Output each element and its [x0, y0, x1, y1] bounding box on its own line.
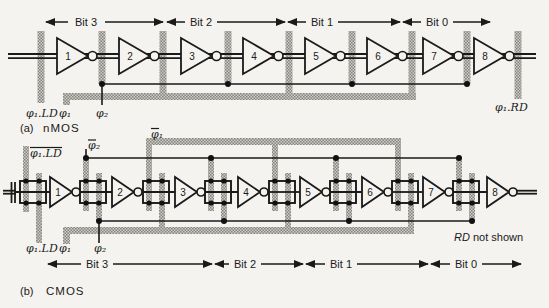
inverter-number: 7 — [431, 51, 437, 62]
nmos-inverter-6: 6 — [367, 38, 407, 74]
cmos-phi2-label: φ₂ — [94, 242, 106, 255]
ld-clock-bar — [38, 31, 45, 103]
bit1-label: Bit 1 — [330, 258, 352, 270]
cmos-inverter-7: 7 — [423, 177, 453, 207]
nmos-ld-label: φ₁.LD — [26, 107, 58, 120]
inverter-number: 3 — [189, 51, 195, 62]
phi1-rail-stub — [63, 100, 70, 105]
rd-clock-bar — [515, 31, 522, 99]
phi1bar-clock-bar — [272, 138, 278, 211]
bit3-label: Bit 3 — [86, 258, 108, 270]
inverter-number: 2 — [117, 187, 123, 198]
cmos-phi1-label: φ₁ — [59, 242, 71, 255]
cmos-phi2bar-label: φ₂ — [88, 139, 100, 152]
cmos-inverter-6: 6 — [362, 177, 392, 207]
nmos-phi2-label: φ₂ — [96, 107, 108, 120]
nmos-inverter-1: 1 — [57, 38, 97, 74]
inverter-number: 2 — [127, 51, 133, 62]
phi1-clock-rail — [63, 93, 416, 100]
phi1bar-clock-bar — [395, 138, 401, 211]
inverter-number: 4 — [251, 51, 257, 62]
inverter-number: 4 — [243, 187, 249, 198]
nmos-inverter-8: 8 — [474, 38, 514, 74]
inverter-number: 3 — [180, 187, 186, 198]
nmos-rd-label: φ₁.RD — [495, 101, 528, 114]
cmos-caption: CMOS — [46, 285, 85, 297]
bit0-label: Bit 0 — [426, 16, 448, 28]
bit2-label: Bit 2 — [234, 258, 256, 270]
phi1bar-clock-bar — [146, 138, 152, 211]
nmos-bit-spans: Bit 3 Bit 2 Bit 1 Bit 0 — [46, 16, 490, 28]
phi1-clock-rail — [63, 227, 414, 234]
shift-register-figure: Bit 3 Bit 2 Bit 1 Bit 0 — [0, 0, 549, 308]
cmos-inverter-3: 3 — [175, 177, 205, 207]
inverter-number: 6 — [367, 187, 373, 198]
nmos-clock-bars — [38, 31, 522, 105]
inverter-number: 8 — [492, 187, 498, 198]
cmos-ldbar-label: φ₁.LD — [30, 147, 62, 160]
cmos-phi1bar-label: φ₁ — [151, 128, 163, 141]
cmos-bit-spans: Bit 3 Bit 2 Bit 1 Bit 0 — [48, 258, 521, 270]
inverter-number: 1 — [55, 187, 61, 198]
inverter-number: 8 — [482, 51, 488, 62]
nmos-phi1-label: φ₁ — [59, 107, 71, 120]
nmos-inverter-7: 7 — [423, 38, 463, 74]
nmos-inverter-4: 4 — [243, 38, 283, 74]
rd-note-em: RD — [454, 231, 470, 243]
cmos-caption-index: (b) — [20, 285, 33, 297]
nmos-inverter-2: 2 — [119, 38, 159, 74]
inverter-number: 5 — [305, 187, 311, 198]
circuit-diagram: Bit 3 Bit 2 Bit 1 Bit 0 — [0, 0, 549, 308]
rd-not-shown-note: RD not shown — [454, 231, 523, 243]
cmos-section: 1 2 3 4 5 6 7 8 φ — [3, 128, 537, 298]
nmos-section: Bit 3 Bit 2 Bit 1 Bit 0 — [8, 16, 536, 134]
cmos-inverter-1: 1 — [50, 177, 80, 207]
cmos-inverter-5: 5 — [300, 177, 330, 207]
nmos-inverter-5: 5 — [305, 38, 345, 74]
inverter-number: 7 — [428, 187, 434, 198]
inverter-number: 1 — [65, 51, 71, 62]
cmos-ld-label: φ₁.LD — [26, 242, 58, 255]
nmos-inverter-3: 3 — [181, 38, 221, 74]
cmos-inverter-2: 2 — [112, 177, 142, 207]
rd-note-rest: not shown — [470, 231, 523, 243]
cmos-inverter-4: 4 — [238, 177, 268, 207]
inverter-number: 5 — [313, 51, 319, 62]
cmos-inverter-8: 8 — [487, 177, 517, 207]
bit0-label: Bit 0 — [455, 258, 477, 270]
nmos-caption: nMOS — [43, 122, 80, 134]
inverter-number: 6 — [375, 51, 381, 62]
nmos-caption-index: (a) — [20, 122, 33, 134]
bit3-label: Bit 3 — [75, 16, 97, 28]
bit1-label: Bit 1 — [311, 16, 333, 28]
bit2-label: Bit 2 — [190, 16, 212, 28]
